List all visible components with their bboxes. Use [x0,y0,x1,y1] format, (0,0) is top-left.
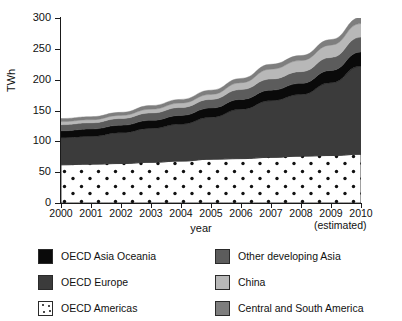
y-tick-label: 150 [0,105,51,116]
y-tick-label: 0 [0,197,51,208]
x-axis-estimated-note: (estimated) [314,220,367,231]
y-tick-label: 100 [0,135,51,146]
legend-label: Central and South America [238,302,364,314]
legend-swatch-other-developing-asia [215,249,230,264]
y-tick-label: 300 [0,12,51,23]
legend-label: China [238,276,265,288]
stacked-area-svg [61,18,361,203]
legend-label: Other developing Asia [238,250,341,262]
y-tick-mark [55,172,61,173]
x-tick-label: 2010 [341,208,381,219]
legend-label: OECD Asia Oceania [61,250,156,262]
legend-swatch-central-and-south-america [215,301,230,316]
legend-item[interactable]: OECD Asia Oceania [38,243,228,269]
y-tick-mark [55,80,61,81]
y-tick-label: 250 [0,43,51,54]
legend-item[interactable]: OECD Americas [38,295,228,321]
y-tick-label: 50 [0,166,51,177]
legend-item[interactable]: China [215,269,402,295]
legend-label: OECD Americas [61,302,137,314]
plot-area [61,18,361,203]
chart-root: 050100150200250300 200020012002200320042… [0,0,402,321]
legend-column-left: OECD Asia OceaniaOECD EuropeOECD America… [38,243,228,321]
legend-swatch-oecd-europe [38,275,53,290]
legend-swatch-oecd-americas [38,301,53,316]
chart-legend: OECD Asia OceaniaOECD EuropeOECD America… [0,243,402,321]
legend-item[interactable]: Central and South America [215,295,402,321]
legend-swatch-china [215,275,230,290]
y-tick-mark [55,141,61,142]
legend-item[interactable]: Other developing Asia [215,243,402,269]
y-tick-mark [55,111,61,112]
y-axis-label: TWh [6,69,17,92]
y-tick-mark [55,18,61,19]
legend-swatch-oecd-asia-oceania [38,249,53,264]
legend-column-right: Other developing AsiaChinaCentral and So… [215,243,402,321]
plot-wrapper: 050100150200250300 200020012002200320042… [0,0,402,240]
y-tick-mark [55,49,61,50]
legend-item[interactable]: OECD Europe [38,269,228,295]
legend-label: OECD Europe [61,276,128,288]
